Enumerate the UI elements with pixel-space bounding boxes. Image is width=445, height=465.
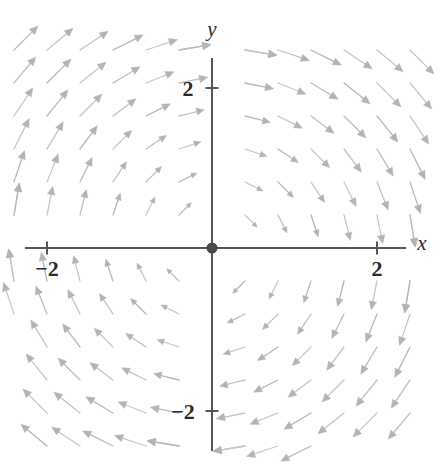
vector-arrow-head — [318, 194, 325, 202]
vector-arrow-shaft — [290, 413, 311, 426]
vector-arrow-head — [336, 298, 343, 306]
vector-arrow-shaft — [47, 161, 56, 182]
vector-arrow-head — [115, 193, 121, 201]
vector-arrow-head — [268, 50, 277, 58]
vector-arrow-head — [52, 154, 59, 163]
vector-arrow-shaft — [344, 182, 353, 200]
vector-arrow-head — [395, 368, 402, 377]
vector-arrow-head — [97, 62, 106, 70]
vector-arrow-head — [332, 329, 339, 338]
vector-arrow-shaft — [223, 413, 245, 417]
vector-arrow-head — [54, 392, 63, 400]
vector-arrow-shaft — [294, 380, 311, 393]
vector-arrow-shaft — [89, 434, 113, 446]
vector-arrow-head — [361, 96, 370, 104]
vector-arrow-head — [25, 88, 33, 97]
vector-arrow-shaft — [311, 215, 316, 231]
vector-arrow-head — [329, 92, 338, 100]
vector-arrow-head — [345, 232, 352, 240]
vector-arrow-head — [418, 170, 425, 179]
vector-arrow-shaft — [395, 380, 410, 402]
vector-arrow-shaft — [14, 190, 18, 215]
vector-arrow-shaft — [377, 149, 390, 170]
vector-arrow-shaft — [163, 342, 179, 347]
vector-arrow-head — [137, 263, 142, 270]
axis-layer — [25, 58, 406, 451]
vector-arrow-head — [290, 156, 298, 163]
vector-arrow-head — [134, 35, 143, 42]
y-axis-label: y — [205, 17, 217, 41]
vector-arrow-shaft — [344, 116, 361, 133]
vector-arrow-shaft — [80, 35, 102, 50]
vector-arrow-head — [68, 290, 75, 299]
vector-arrow-head — [147, 438, 156, 446]
vector-arrow-shaft — [28, 394, 47, 413]
vector-arrow-shaft — [146, 201, 153, 215]
plot-canvas: −222−2 x y — [0, 0, 445, 465]
vector-arrow-head — [391, 399, 399, 408]
x-axis-label: x — [416, 231, 427, 255]
vector-arrow-head — [56, 122, 64, 131]
vector-arrow-head — [114, 435, 123, 442]
y-tick-label: −2 — [171, 399, 195, 424]
vector-arrow-shaft — [410, 116, 425, 138]
vector-arrow-shaft — [179, 205, 189, 215]
vector-arrow-head — [281, 454, 290, 461]
vector-arrow-head — [86, 397, 95, 405]
vector-arrow-shaft — [63, 363, 80, 380]
vector-arrow-head — [120, 162, 127, 170]
vector-arrow-shaft — [271, 281, 278, 295]
vector-arrow-shaft — [377, 50, 398, 67]
vector-arrow-head — [193, 141, 201, 147]
vector-arrow-shaft — [58, 431, 80, 446]
vector-arrow-head — [421, 135, 429, 144]
vector-arrow-head — [327, 361, 335, 370]
vector-arrow-shaft — [306, 281, 311, 297]
equilibrium-marker-layer — [207, 243, 218, 254]
vector-arrow-head — [390, 133, 398, 142]
vector-arrow-head — [168, 39, 177, 46]
vector-arrow-shaft — [113, 70, 134, 83]
vector-arrow-head — [63, 324, 71, 333]
vector-arrow-shaft — [335, 314, 344, 332]
vector-arrow-shaft — [229, 347, 245, 352]
vector-arrow-head — [300, 54, 309, 61]
x-tick-label: −2 — [35, 256, 59, 281]
vector-arrow-shaft — [80, 164, 89, 182]
vector-arrow-shaft — [113, 103, 130, 116]
vector-arrow-head — [158, 135, 166, 142]
vector-arrow-shaft — [179, 175, 193, 182]
vector-arrow-head — [258, 354, 266, 361]
vector-arrow-shaft — [373, 281, 377, 303]
vector-arrow-head — [90, 363, 99, 371]
vector-arrow-head — [363, 61, 372, 69]
vector-arrow-shaft — [10, 256, 14, 281]
vector-arrow-head — [325, 125, 334, 133]
vector-arrow-head — [256, 186, 263, 191]
vector-arrow-shaft — [311, 116, 328, 129]
vector-arrow-head — [313, 229, 319, 237]
vector-arrow-shaft — [358, 413, 377, 432]
vector-arrow-shaft — [297, 347, 311, 361]
vector-arrow-shaft — [113, 167, 123, 182]
vector-arrow-shaft — [257, 413, 278, 422]
vector-arrow-shaft — [146, 139, 161, 149]
vector-arrow-shaft — [260, 380, 278, 389]
vector-arrow-shaft — [47, 193, 51, 215]
vector-arrow-head — [293, 121, 302, 128]
vector-arrow-head — [199, 75, 208, 83]
vector-arrow-head — [282, 226, 287, 233]
vector-arrow-shaft — [245, 116, 264, 121]
vector-arrow-shaft — [113, 135, 127, 149]
vector-arrow-shaft — [47, 128, 60, 149]
equilibrium-point-marker — [207, 243, 218, 254]
vector-arrow-head — [382, 201, 389, 210]
vector-arrow-shaft — [377, 215, 381, 237]
vector-arrow-shaft — [235, 281, 245, 291]
vector-arrow-head — [35, 286, 42, 295]
vector-arrow-head — [22, 119, 29, 128]
vector-arrow-shaft — [278, 149, 293, 159]
vector-arrow-shaft — [103, 299, 113, 314]
vector-arrow-head — [31, 320, 39, 329]
vector-arrow-shaft — [377, 116, 393, 136]
